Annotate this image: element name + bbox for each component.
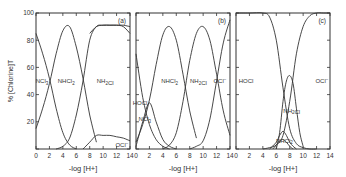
x-tick-label: 0: [134, 152, 138, 159]
y-tick-label: 40: [27, 91, 35, 98]
y-tick-label: 80: [27, 37, 35, 44]
panel-c: 02468101214-log [H+](c)HOClOCl−NH2ClNHCl…: [234, 13, 334, 173]
x-tick-label: 10: [200, 152, 208, 159]
species-label: NH2Cl: [190, 78, 207, 86]
species-label: NHCl2: [161, 78, 178, 86]
x-tick-label: 10: [100, 152, 108, 159]
x-tick-label: 2: [248, 152, 252, 159]
figure: % [Chlorine]T 0246810121420406080100-log…: [0, 0, 346, 177]
panel-b: 02468101214-log [H+](b)HOClNCl3NHCl2NH2C…: [133, 13, 234, 173]
species-label: NCl3: [36, 78, 49, 86]
x-tick-label: 2: [148, 152, 152, 159]
species-label: HOCl: [133, 100, 148, 106]
curve-ncl3: [36, 33, 76, 149]
species-label: OCl−: [115, 141, 128, 148]
x-tick-label: 6: [274, 152, 278, 159]
panel-label: (b): [218, 17, 226, 25]
y-tick-label: 60: [27, 64, 35, 71]
x-tick-label: 12: [113, 152, 121, 159]
panel-label: (a): [118, 17, 126, 25]
x-tick-label: 0: [34, 152, 38, 159]
x-axis-label: -log [H+]: [269, 164, 298, 173]
x-axis-label: -log [H+]: [69, 164, 98, 173]
species-label: NH2Cl: [97, 78, 114, 86]
species-label: OCl−: [213, 77, 226, 84]
x-tick-label: 6: [174, 152, 178, 159]
x-axis-label: -log [H+]: [169, 164, 198, 173]
curve-upperboundary: [90, 25, 130, 33]
x-tick-label: 12: [213, 152, 221, 159]
species-label: OCl−: [315, 77, 328, 84]
x-tick-label: 14: [226, 152, 234, 159]
curve-nhcl2: [136, 26, 196, 142]
panel-a: 0246810121420406080100-log [H+](a)NCl3NH…: [23, 9, 134, 173]
y-axis-label: % [Chlorine]T: [7, 59, 15, 102]
x-tick-label: 14: [126, 152, 134, 159]
x-tick-label: 6: [74, 152, 78, 159]
species-label: NH2Cl: [283, 108, 300, 116]
x-tick-label: 10: [300, 152, 308, 159]
panel-label: (c): [318, 17, 326, 25]
species-label: HOCl: [239, 78, 254, 84]
x-tick-label: 14: [326, 152, 334, 159]
x-tick-label: 0: [234, 152, 238, 159]
curve-nh2cl: [163, 26, 230, 149]
x-tick-label: 4: [161, 152, 165, 159]
x-tick-label: 4: [261, 152, 265, 159]
x-tick-label: 4: [61, 152, 65, 159]
x-tick-label: 2: [48, 152, 52, 159]
x-tick-label: 8: [188, 152, 192, 159]
y-axis-label-group: % [Chlorine]T: [7, 59, 15, 102]
x-tick-label: 8: [288, 152, 292, 159]
y-tick-label: 20: [27, 118, 35, 125]
y-tick-label: 100: [23, 9, 34, 16]
x-tick-label: 12: [313, 152, 321, 159]
x-tick-label: 8: [88, 152, 92, 159]
species-label: NHCl2: [58, 78, 75, 86]
